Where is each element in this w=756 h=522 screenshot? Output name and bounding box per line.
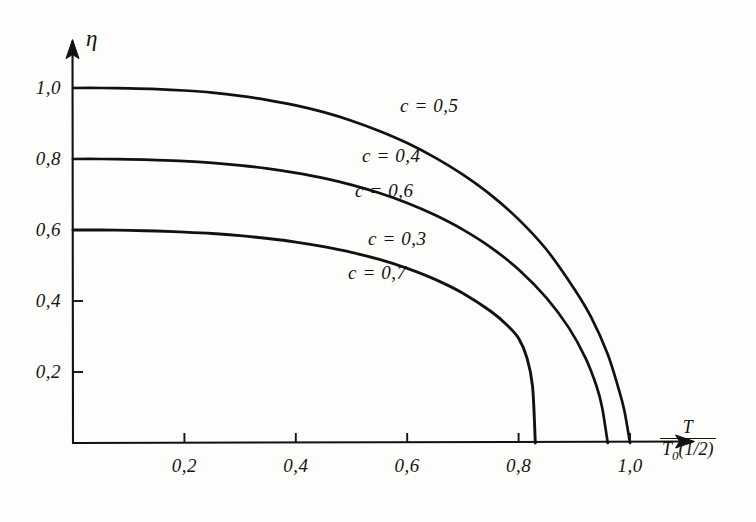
y-tick-label-0: 0,2 xyxy=(36,361,61,383)
x-axis-title-denominator-base: T xyxy=(662,439,672,459)
curve-label-4: c = 0,7 xyxy=(348,262,407,284)
y-tick-label-1: 0,4 xyxy=(36,290,61,312)
plot-canvas xyxy=(0,0,756,522)
curve-1 xyxy=(73,159,608,443)
x-tick-label-1: 0,4 xyxy=(283,455,308,477)
y-tick-label-4: 1,0 xyxy=(36,77,61,99)
x-axis-title-numerator: T xyxy=(660,418,716,439)
y-tick-label-3: 0,8 xyxy=(36,148,61,170)
x-tick-label-0: 0,2 xyxy=(172,455,197,477)
x-axis-title: T T0(1/2) xyxy=(660,418,716,462)
curve-label-0: c = 0,5 xyxy=(400,95,459,117)
curve-label-3: c = 0,3 xyxy=(368,228,427,250)
y-axis-line xyxy=(73,42,74,443)
x-tick-label-4: 1,0 xyxy=(617,455,642,477)
x-axis-line xyxy=(73,442,693,444)
x-axis-title-denominator: T0(1/2) xyxy=(660,439,716,462)
x-tick-label-2: 0,6 xyxy=(395,455,420,477)
curve-2 xyxy=(73,230,535,443)
figure-container: 0,20,40,60,81,00,20,40,60,81,0 c = 0,5c … xyxy=(0,0,756,522)
curve-label-1: c = 0,4 xyxy=(362,145,421,167)
x-axis-title-denominator-tail: (1/2) xyxy=(679,439,714,459)
curve-label-2: c = 0,6 xyxy=(355,180,414,202)
y-tick-label-2: 0,6 xyxy=(36,219,61,241)
y-axis-title: η xyxy=(86,26,97,52)
x-tick-label-3: 0,8 xyxy=(506,455,531,477)
